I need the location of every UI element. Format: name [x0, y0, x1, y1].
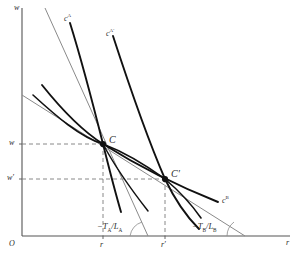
- curve-label-cA: cA: [64, 14, 71, 23]
- slope-B-num-sub: B: [202, 227, 206, 233]
- slope-annotation-A: −TA/LA: [97, 222, 122, 233]
- x-axis-label: r: [286, 239, 289, 247]
- projection-lines-group: [22, 144, 165, 236]
- slope-A-num-sub: A: [107, 227, 111, 233]
- point-label-Cprime: C′: [171, 169, 180, 179]
- diagram-svg: [0, 0, 298, 263]
- budget-line-B: [22, 95, 245, 236]
- figure-canvas: w r O w w′ r r′ C C′ cA cA′ cB −TA/LA −T…: [0, 0, 298, 263]
- curve-cA: [70, 23, 121, 212]
- curve-label-cB-sup: B: [226, 195, 229, 200]
- y-tick-label-w: w: [9, 139, 14, 147]
- curve-label-cAprime: cA′: [106, 29, 114, 38]
- curve-cB: [42, 85, 218, 202]
- y-tick-label-wprime: w′: [7, 174, 14, 182]
- y-axis-label: w: [14, 4, 19, 12]
- x-tick-label-r: r: [100, 241, 103, 249]
- slope-annotation-B: −TB/LB: [192, 222, 217, 233]
- point-C-marker: [100, 141, 106, 147]
- point-Cprime-marker: [162, 176, 168, 182]
- angle-arc-A: [130, 222, 142, 236]
- point-label-C: C: [109, 135, 116, 145]
- curve-label-cB: cB: [222, 196, 229, 205]
- origin-label: O: [9, 240, 15, 248]
- curve-label-cAprime-sup: A′: [110, 28, 115, 33]
- x-tick-label-rprime: r′: [161, 241, 166, 249]
- curve-label-cA-sup: A: [68, 13, 72, 18]
- slope-A-den-sub: A: [118, 227, 122, 233]
- angle-arc-B: [227, 222, 234, 236]
- axes-group: [22, 8, 290, 236]
- slope-B-den-sub: B: [213, 227, 217, 233]
